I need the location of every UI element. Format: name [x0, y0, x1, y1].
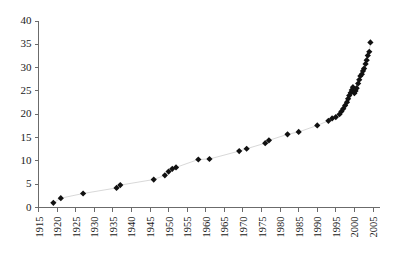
x-tick-label: 1935 — [108, 217, 119, 238]
chart-container: 0510152025303540 19151920192519301935194… — [0, 0, 406, 260]
x-tick-label: 1950 — [164, 217, 175, 238]
x-tick-label: 2000 — [349, 217, 360, 238]
scatter-chart: 0510152025303540 19151920192519301935194… — [0, 0, 406, 260]
x-tick-label: 1940 — [126, 217, 137, 238]
y-tick-label: 25 — [21, 84, 33, 96]
x-tick-label: 1925 — [71, 217, 82, 238]
x-tick-label: 1965 — [219, 217, 230, 238]
x-tick-label: 1995 — [331, 217, 342, 238]
x-tick-label: 1955 — [182, 217, 193, 238]
y-tick-label: 35 — [21, 37, 33, 49]
x-tick-label: 1920 — [52, 217, 63, 238]
x-tick-label: 1960 — [201, 217, 212, 238]
x-tick-label: 1915 — [34, 217, 45, 238]
x-tick-label: 1970 — [238, 217, 249, 238]
y-tick-label: 20 — [21, 107, 33, 119]
y-tick-label: 5 — [26, 177, 32, 189]
y-tick-label: 10 — [21, 154, 33, 166]
y-tick-label: 15 — [21, 131, 33, 143]
x-tick-label: 1985 — [294, 217, 305, 238]
x-tick-label: 1990 — [312, 217, 323, 238]
x-tick-label: 2005 — [368, 217, 379, 238]
x-tick-label: 1980 — [275, 217, 286, 238]
y-tick-label: 40 — [21, 14, 33, 26]
x-tick-label: 1945 — [145, 217, 156, 238]
x-tick-label: 1930 — [89, 217, 100, 238]
y-tick-label: 0 — [26, 201, 32, 213]
y-tick-label: 30 — [21, 61, 33, 73]
x-tick-label: 1975 — [257, 217, 268, 238]
